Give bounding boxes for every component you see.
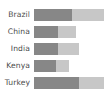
bar-segment-1-china [34,26,58,38]
bar-kenya[interactable] [34,60,69,72]
chart-row-brazil: Brazil [0,9,112,21]
bar-segment-1-kenya [34,60,56,72]
bar-segment-2-china [58,26,76,38]
bar-india[interactable] [34,43,79,55]
bar-segment-2-kenya [56,60,69,72]
chart-row-china: China [0,26,112,38]
stacked-bar-chart: Brazil China India Kenya Turkey [0,0,112,100]
bar-segment-2-india [58,43,79,55]
bar-segment-2-brazil [72,9,104,21]
bar-segment-1-turkey [34,77,79,89]
bar-turkey[interactable] [34,77,104,89]
bar-brazil[interactable] [34,9,104,21]
category-label-kenya: Kenya [0,60,34,72]
bar-segment-2-turkey [79,77,104,89]
chart-row-india: India [0,43,112,55]
chart-row-turkey: Turkey [0,77,112,89]
category-label-china: China [0,26,34,38]
bar-segment-1-brazil [34,9,72,21]
bar-segment-1-india [34,43,58,55]
chart-row-kenya: Kenya [0,60,112,72]
category-label-india: India [0,43,34,55]
category-label-brazil: Brazil [0,9,34,21]
bar-china[interactable] [34,26,76,38]
category-label-turkey: Turkey [0,77,34,89]
